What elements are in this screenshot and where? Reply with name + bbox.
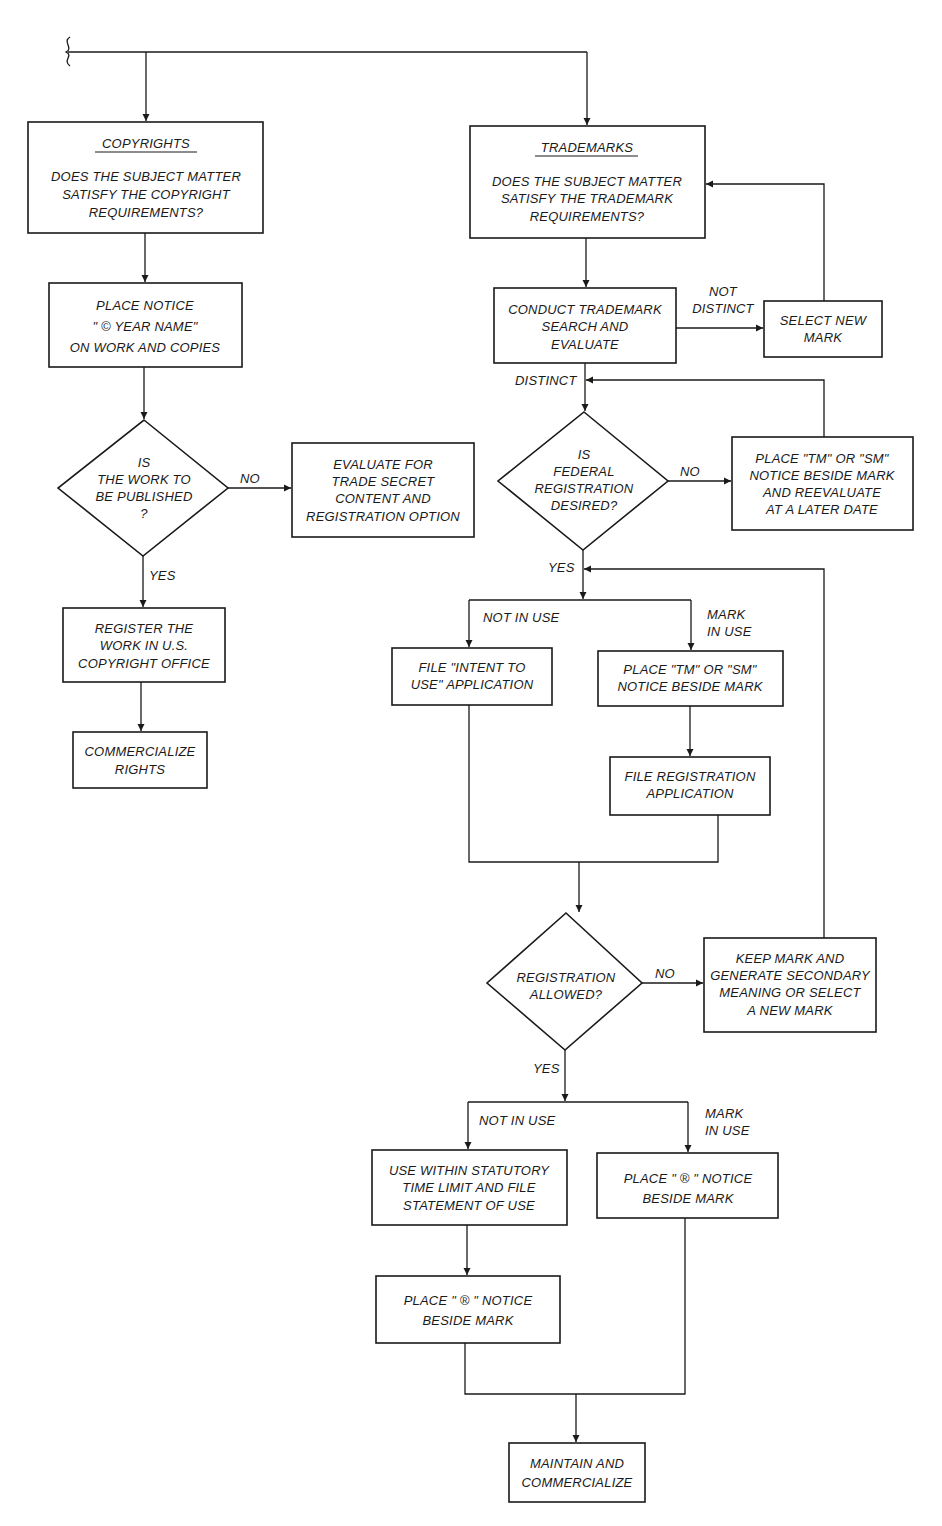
text-line: BE PUBLISHED [95, 489, 192, 504]
place-registered-notice-left-box: PLACE " ® " NOTICE BESIDE MARK [376, 1276, 560, 1343]
text-line: TRADE SECRET [332, 474, 436, 489]
publish-decision-diamond: IS THE WORK TO BE PUBLISHED ? [58, 420, 228, 556]
place-registered-notice-right-box: PLACE " ® " NOTICE BESIDE MARK [597, 1153, 778, 1218]
text-line: ALLOWED? [529, 987, 603, 1002]
mark-in-use-label: IN USE [705, 1123, 750, 1138]
registration-allowed-diamond: REGISTRATION ALLOWED? [487, 913, 642, 1050]
edge-later-loop [586, 380, 824, 437]
trademark-search-box: CONDUCT TRADEMARK SEARCH AND EVALUATE [494, 288, 676, 363]
intent-to-use-box: FILE "INTENT TO USE" APPLICATION [392, 648, 552, 705]
text-line: SELECT NEW [780, 313, 868, 328]
text-line: DOES THE SUBJECT MATTER [492, 174, 682, 189]
text-line: USE WITHIN STATUTORY [389, 1163, 550, 1178]
not-distinct-label: NOT [709, 284, 738, 299]
evaluate-trade-secret-box: EVALUATE FOR TRADE SECRET CONTENT AND RE… [292, 443, 474, 537]
text-line: COMMERCIALIZE [522, 1475, 633, 1490]
text-line: CONTENT AND [335, 491, 431, 506]
text-line: FEDERAL [553, 464, 614, 479]
file-registration-box: FILE REGISTRATION APPLICATION [610, 757, 770, 815]
no-label: NO [680, 464, 700, 479]
text-line: REGISTRATION OPTION [306, 509, 460, 524]
text-line: CONDUCT TRADEMARK [508, 302, 663, 317]
text-line: COPYRIGHT OFFICE [78, 656, 210, 671]
text-line: IS [138, 455, 151, 470]
text-line: SATISFY THE COPYRIGHT [62, 187, 231, 202]
mark-in-use-label: IN USE [707, 624, 752, 639]
select-new-mark-box: SELECT NEW MARK [764, 301, 882, 357]
not-distinct-label: DISTINCT [692, 301, 754, 316]
text-line: MAINTAIN AND [530, 1456, 624, 1471]
text-line: AND REEVALUATE [762, 485, 881, 500]
text-line: SEARCH AND [542, 319, 629, 334]
yes-label: YES [533, 1061, 560, 1076]
text-line: ON WORK AND COPIES [70, 340, 221, 355]
text-line: REQUIREMENTS? [89, 205, 204, 220]
text-line: MARK [804, 330, 843, 345]
text-line: PLACE "TM" OR "SM" [623, 662, 757, 677]
text-line: THE WORK TO [97, 472, 191, 487]
text-line: COMMERCIALIZE [85, 744, 196, 759]
registered-symbol-line: PLACE " ® " NOTICE [624, 1171, 753, 1186]
not-in-use-label: NOT IN USE [479, 1113, 556, 1128]
trademarks-box: TRADEMARKS DOES THE SUBJECT MATTER SATIS… [470, 126, 705, 238]
trademarks-header: TRADEMARKS [541, 140, 633, 155]
edge-keep-mark-loop [584, 569, 824, 938]
text-line: PLACE "TM" OR "SM" [755, 451, 889, 466]
text-line: PLACE NOTICE [96, 298, 194, 313]
text-line: A NEW MARK [746, 1003, 833, 1018]
distinct-label: DISTINCT [515, 373, 577, 388]
text-line: RIGHTS [115, 762, 165, 777]
text-line: USE" APPLICATION [411, 677, 534, 692]
text-line: REGISTRATION [535, 481, 634, 496]
maintain-commercialize-box: MAINTAIN AND COMMERCIALIZE [509, 1443, 645, 1502]
text-line: ? [140, 506, 148, 521]
federal-registration-diamond: IS FEDERAL REGISTRATION DESIRED? [498, 412, 668, 550]
place-tm-notice-box: PLACE "TM" OR "SM" NOTICE BESIDE MARK [598, 651, 783, 706]
text-line: REGISTRATION [517, 970, 616, 985]
text-line: NOTICE BESIDE MARK [617, 679, 763, 694]
flowchart-canvas: COPYRIGHTS DOES THE SUBJECT MATTER SATIS… [0, 0, 942, 1526]
text-line: FILE REGISTRATION [624, 769, 755, 784]
yes-label: YES [548, 560, 575, 575]
place-copyright-notice-box: PLACE NOTICE " © YEAR NAME" ON WORK AND … [49, 283, 242, 367]
text-line: AT A LATER DATE [765, 502, 878, 517]
text-line: NOTICE BESIDE MARK [749, 468, 895, 483]
text-line: IS [578, 447, 591, 462]
text-line: SATISFY THE TRADEMARK [501, 191, 674, 206]
text-line: REGISTER THE [95, 621, 194, 636]
text-line: BESIDE MARK [422, 1313, 514, 1328]
text-line: DESIRED? [551, 498, 618, 513]
text-line: MEANING OR SELECT [719, 985, 861, 1000]
register-copyright-box: REGISTER THE WORK IN U.S. COPYRIGHT OFFI… [63, 608, 225, 682]
text-line: DOES THE SUBJECT MATTER [51, 169, 241, 184]
registered-symbol-line: PLACE " ® " NOTICE [404, 1293, 533, 1308]
text-line: REQUIREMENTS? [530, 209, 645, 224]
commercialize-rights-box: COMMERCIALIZE RIGHTS [73, 732, 207, 788]
not-in-use-label: NOT IN USE [483, 610, 560, 625]
place-tm-reevaluate-box: PLACE "TM" OR "SM" NOTICE BESIDE MARK AN… [732, 437, 913, 530]
text-line: TIME LIMIT AND FILE [402, 1180, 535, 1195]
keep-mark-box: KEEP MARK AND GENERATE SECONDARY MEANING… [704, 938, 876, 1032]
text-line: BESIDE MARK [642, 1191, 734, 1206]
text-line: GENERATE SECONDARY [710, 968, 871, 983]
no-label: NO [655, 966, 675, 981]
text-line: EVALUATE [551, 337, 619, 352]
text-line: FILE "INTENT TO [418, 660, 525, 675]
copyright-symbol-line: " © YEAR NAME" [92, 319, 198, 334]
text-line: EVALUATE FOR [333, 457, 433, 472]
use-within-statutory-box: USE WITHIN STATUTORY TIME LIMIT AND FILE… [372, 1150, 567, 1225]
text-line: APPLICATION [645, 786, 734, 801]
no-label: NO [240, 471, 260, 486]
copyrights-header: COPYRIGHTS [102, 136, 190, 151]
mark-in-use-label: MARK [707, 607, 746, 622]
yes-label: YES [149, 568, 176, 583]
text-line: WORK IN U.S. [100, 638, 188, 653]
mark-in-use-label: MARK [705, 1106, 744, 1121]
text-line: KEEP MARK AND [736, 951, 845, 966]
copyrights-box: COPYRIGHTS DOES THE SUBJECT MATTER SATIS… [28, 122, 263, 233]
text-line: STATEMENT OF USE [403, 1198, 535, 1213]
